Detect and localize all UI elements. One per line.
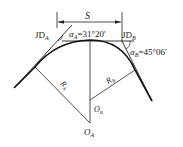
radius-b-label: RB — [103, 74, 116, 87]
jd-a-label: JDA — [35, 30, 49, 41]
alpha-a-label: αA=31°20′ — [69, 29, 106, 40]
jd-b-label: JDB — [122, 30, 136, 41]
alpha-b-label: αB=45°06′ — [130, 47, 167, 58]
radius-a-line — [35, 67, 90, 123]
arrowhead-right-icon — [115, 20, 121, 24]
center-b-label: OB — [94, 105, 103, 115]
arrowhead-left-icon — [58, 20, 64, 24]
diagram-canvas: S JDA JDB αA=31°20′ αB=45°06′ RA RB OB O… — [0, 0, 183, 147]
radius-b-line — [90, 70, 135, 100]
span-label: S — [85, 10, 90, 21]
compound-curve-diagram: S JDA JDB αA=31°20′ αB=45°06′ RA RB OB O… — [0, 0, 183, 147]
radius-a-label: RA — [57, 78, 71, 92]
center-a-label: OA — [84, 127, 95, 138]
